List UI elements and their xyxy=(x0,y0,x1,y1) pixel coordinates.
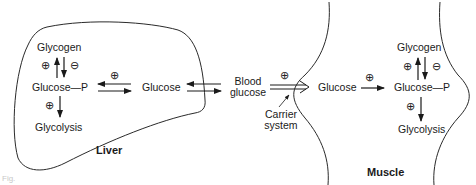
carrier-pointer-arrow xyxy=(279,95,289,107)
muscle-glycolysis-plus-icon: ⊕ xyxy=(406,101,415,112)
liver-glucose-to-glucosep-plus-icon: ⊕ xyxy=(110,70,119,81)
blood-glucose-label: Blood glucose xyxy=(228,76,268,98)
liver-glycolysis-plus-icon: ⊕ xyxy=(45,100,54,111)
liver-glucose-p-label: Glucose—P xyxy=(32,82,88,93)
muscle-glycogen-label: Glycogen xyxy=(397,42,441,53)
muscle-phosphorylation-plus-icon: ⊕ xyxy=(365,72,374,83)
blood-uptake-plus-icon: ⊕ xyxy=(280,70,289,81)
blood-glucose-line2: glucose xyxy=(228,87,268,98)
muscle-glycogen-up-plus-icon: ⊕ xyxy=(403,61,412,72)
carrier-line2: system xyxy=(261,120,301,131)
liver-title: Liver xyxy=(96,145,122,156)
muscle-glucose-p-label: Glucose—P xyxy=(394,82,450,93)
liver-glycolysis-label: Glycolysis xyxy=(35,122,82,133)
muscle-glycogen-down-minus-icon: ⊖ xyxy=(432,61,441,72)
muscle-glycolysis-label: Glycolysis xyxy=(398,124,445,135)
carrier-uptake-arrow xyxy=(270,81,309,93)
muscle-title: Muscle xyxy=(367,167,404,178)
liver-glycogen-label: Glycogen xyxy=(37,42,81,53)
muscle-glucose-label: Glucose xyxy=(318,82,357,93)
muscle-left-membrane xyxy=(294,2,330,185)
carrier-system-label: Carrier system xyxy=(261,109,301,131)
liver-glycogen-down-minus-icon: ⊖ xyxy=(70,60,79,71)
liver-glucose-label: Glucose xyxy=(142,82,181,93)
muscle-right-membrane xyxy=(434,2,470,185)
figure-caption: Fig. xyxy=(2,174,15,183)
liver-glycogen-up-plus-icon: ⊕ xyxy=(41,60,50,71)
